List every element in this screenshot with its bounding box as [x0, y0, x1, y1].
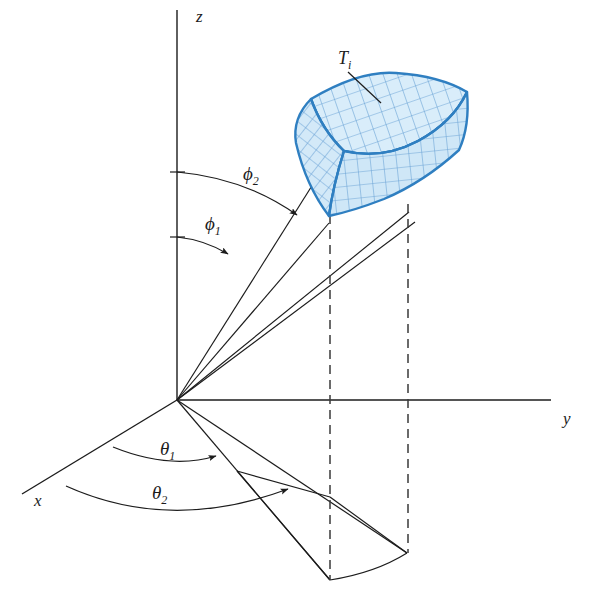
spherical-coordinates-figure: z y x ϕ2 ϕ1 θ1 θ2	[0, 0, 590, 594]
ray-phi2-theta2	[177, 212, 409, 400]
x-axis	[22, 400, 177, 494]
diagram-canvas: z y x ϕ2 ϕ1 θ1 θ2	[0, 0, 590, 594]
axes-group	[22, 10, 551, 494]
projection-edge-outer-bottom	[330, 553, 407, 580]
projection-edge-outer-top	[237, 471, 330, 497]
phi2-label: ϕ2	[243, 163, 259, 188]
y-axis-label: y	[561, 409, 571, 428]
theta1-label: θ1	[160, 438, 175, 463]
phi1-label: ϕ1	[205, 213, 221, 238]
theta2-arc	[66, 486, 288, 510]
x-axis-label: x	[33, 491, 42, 510]
volume-element-patch	[295, 73, 467, 216]
ray-phi1-theta1	[177, 173, 320, 400]
dashed-projection-lines	[330, 204, 408, 580]
projection-edge-left	[237, 471, 330, 580]
ray-phi2-theta1	[177, 223, 329, 400]
rays-group	[177, 173, 415, 400]
theta2-label: θ2	[152, 482, 167, 507]
projection-edge-right	[330, 497, 407, 553]
ray-outer-lower	[177, 222, 415, 400]
theta-arcs-group	[66, 447, 288, 510]
phi-arcs-group	[177, 172, 297, 254]
xy-projection-quad	[177, 400, 407, 580]
projection-edge-far	[177, 400, 407, 553]
z-axis-label: z	[195, 7, 203, 26]
patch-label: Ti	[338, 48, 351, 72]
phi2-arc	[177, 172, 297, 215]
phi1-arc	[177, 237, 228, 254]
